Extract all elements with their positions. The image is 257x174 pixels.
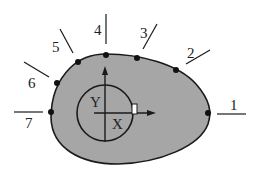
measurement-point-6: 6 — [24, 62, 60, 91]
measurement-point-5: 5 — [52, 29, 81, 65]
measurement-point-4: 4 — [94, 14, 109, 58]
svg-text:2: 2 — [187, 45, 195, 61]
egg-cross-section-diagram: Y X 1 2 3 4 5 6 7 — [0, 0, 257, 174]
measurement-point-2: 2 — [173, 45, 210, 73]
measurement-point-7: 7 — [14, 109, 54, 131]
x-axis-label: X — [112, 116, 123, 132]
svg-text:1: 1 — [230, 97, 238, 113]
svg-text:3: 3 — [140, 25, 148, 41]
outer-body-shape — [51, 54, 210, 164]
y-axis-label: Y — [90, 94, 101, 110]
sensor-marker — [132, 104, 137, 114]
measurement-point-3: 3 — [134, 24, 157, 61]
measurement-point-1: 1 — [205, 97, 246, 116]
svg-text:4: 4 — [94, 22, 102, 38]
svg-text:6: 6 — [28, 75, 36, 91]
svg-text:5: 5 — [52, 39, 60, 55]
svg-text:7: 7 — [25, 115, 33, 131]
